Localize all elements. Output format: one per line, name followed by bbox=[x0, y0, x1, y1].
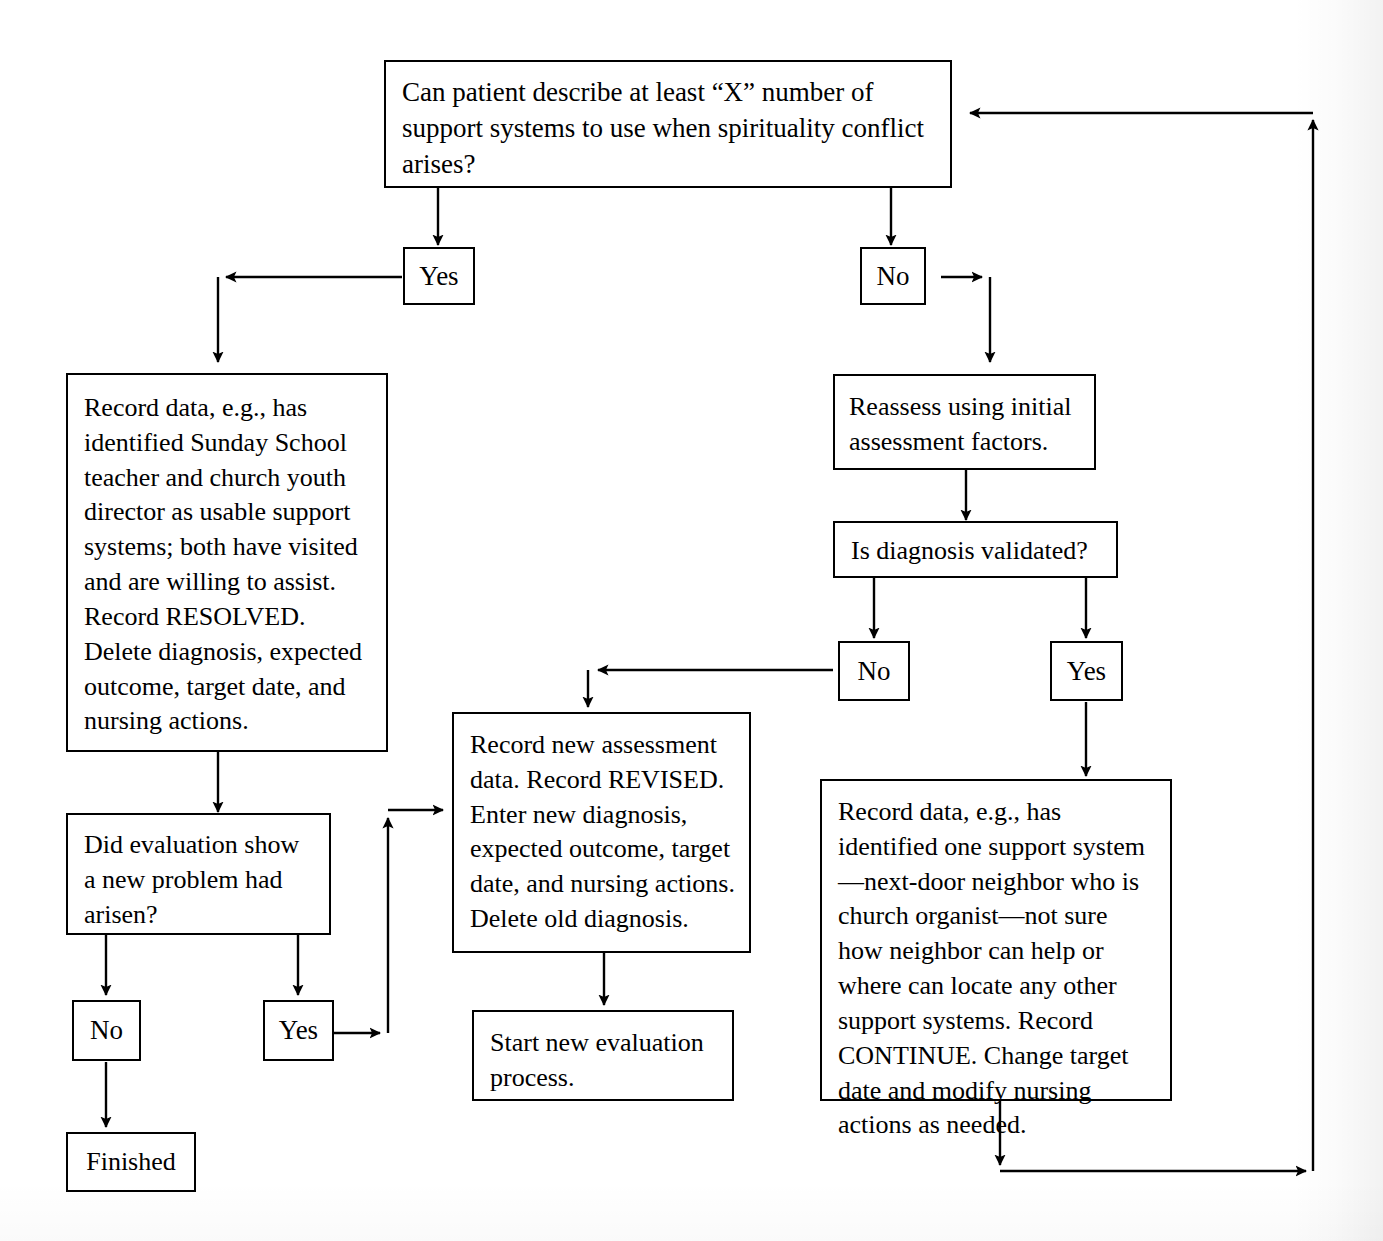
node-text: No bbox=[90, 1012, 123, 1048]
node-question-validated: Is diagnosis validated? bbox=[833, 521, 1118, 578]
paper-shading-bottom bbox=[0, 1181, 1383, 1241]
node-no-new-problem: No bbox=[72, 1000, 141, 1061]
node-text: Record data, e.g., has identified one su… bbox=[838, 795, 1158, 1143]
node-text: Yes bbox=[1067, 653, 1106, 689]
paper-shading-right bbox=[1293, 0, 1383, 1241]
node-yes-validated: Yes bbox=[1050, 641, 1123, 701]
node-record-resolved: Record data, e.g., has identified Sunday… bbox=[66, 373, 388, 752]
node-record-revised: Record new assessment data. Record REVIS… bbox=[452, 712, 751, 953]
node-yes-top: Yes bbox=[403, 247, 475, 305]
node-text: Record new assessment data. Record REVIS… bbox=[470, 728, 737, 937]
node-no-top: No bbox=[860, 247, 926, 305]
node-text: Yes bbox=[279, 1012, 318, 1048]
node-no-validated: No bbox=[838, 641, 910, 701]
node-text: Did evaluation show a new problem had ar… bbox=[84, 828, 317, 932]
node-text: Record data, e.g., has identified Sunday… bbox=[84, 391, 374, 739]
node-question-new-problem: Did evaluation show a new problem had ar… bbox=[66, 813, 331, 935]
node-start-new-evaluation: Start new evaluation process. bbox=[472, 1010, 734, 1101]
node-text: Start new evaluation process. bbox=[490, 1026, 720, 1096]
node-text: Finished bbox=[86, 1145, 176, 1180]
node-text: No bbox=[877, 258, 910, 294]
node-question-support-systems: Can patient describe at least “X” number… bbox=[384, 60, 952, 188]
node-text: Is diagnosis validated? bbox=[851, 534, 1104, 569]
node-reassess: Reassess using initial assessment factor… bbox=[833, 374, 1096, 470]
node-yes-new-problem: Yes bbox=[263, 1000, 334, 1061]
node-text: No bbox=[858, 653, 891, 689]
node-text: Reassess using initial assessment factor… bbox=[849, 390, 1082, 460]
node-text: Can patient describe at least “X” number… bbox=[402, 74, 936, 183]
node-finished: Finished bbox=[66, 1132, 196, 1192]
node-record-continue: Record data, e.g., has identified one su… bbox=[820, 779, 1172, 1101]
flowchart-canvas: Can patient describe at least “X” number… bbox=[0, 0, 1383, 1241]
node-text: Yes bbox=[419, 258, 458, 294]
